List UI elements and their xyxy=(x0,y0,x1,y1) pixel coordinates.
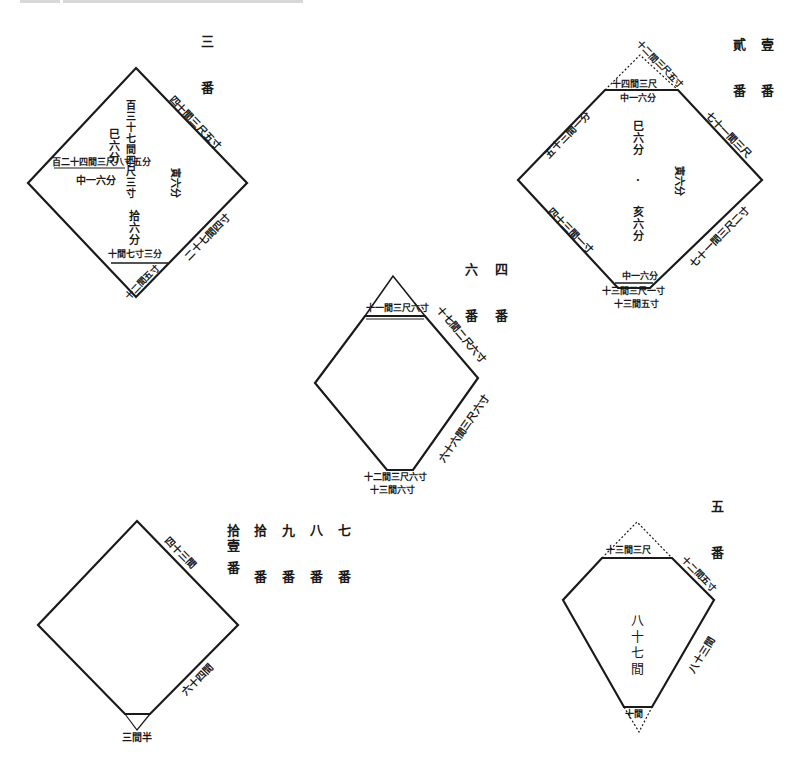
plot-1-2-inner-value-1: 巳六分 xyxy=(632,120,643,156)
plot-label-8: 八 番 xyxy=(309,524,322,597)
plot-1-2-edge-bottom-lower: 十三間五寸 xyxy=(614,300,659,309)
plot-4-6-edge-top-cut: 十一間三尺六寸 xyxy=(366,304,429,313)
plot-5-edge-bottom-cut: 十間 xyxy=(625,710,643,719)
plot-label-3: 三 番 xyxy=(200,35,213,108)
plot-1-2-edge-bottom-cut-above: 中一六分 xyxy=(622,272,658,281)
plot-4-6-edge-bottom-cut: 十二間三尺六寸 xyxy=(364,473,427,482)
plot-3-inner-value-1: 巳六分 xyxy=(108,128,119,164)
plot-label-10: 拾 番 xyxy=(253,524,266,597)
plot-3-edge-bottom-cut: 十間七寸三分 xyxy=(108,250,162,259)
plot-1-2-inner-value-2: 寅六分 xyxy=(674,166,684,196)
plot-label-2: 貳 番 xyxy=(732,38,745,111)
plot-7-11-bottom-triangle xyxy=(125,714,150,730)
plot-3-center-dot: · xyxy=(128,186,132,196)
survey-diagram-canvas xyxy=(0,0,798,769)
plot-5-inner-vertical: 八十七間 xyxy=(630,614,643,678)
plot-label-6: 六 番 xyxy=(464,263,477,336)
plot-7-11-edge-bottom: 三間半 xyxy=(122,733,152,743)
plot-1-2-edge-bottom-cut: 十三間三尺一寸 xyxy=(602,287,665,296)
plot-1-2-center-dot: · xyxy=(636,176,640,186)
plot-label-5: 五 番 xyxy=(710,500,723,573)
plot-3-inner-left: 百二十四間三尺八寸五分 xyxy=(52,158,151,167)
plot-1-2-inner-value-3: 亥六分 xyxy=(632,206,643,242)
plot-5-edge-top-cut: 十三間三尺 xyxy=(606,546,651,555)
plot-3-inner-value-3: 寅六分 xyxy=(170,168,180,198)
plot-4-6-edge-bottom-lower: 十三間六寸 xyxy=(370,486,415,495)
plot-label-4: 四 番 xyxy=(494,263,507,336)
plot-label-9: 九 番 xyxy=(281,524,294,597)
plot-1-2-edge-top-cut: 十四間三尺 xyxy=(612,80,657,89)
plot-7-11-outline xyxy=(38,521,238,714)
plot-1-2-edge-top-cut-below: 中一六分 xyxy=(620,94,656,103)
plot-label-11: 拾壹 番 xyxy=(226,524,239,576)
plot-label-1: 壹 番 xyxy=(760,38,773,111)
plot-3-inner-value-2: 中一六分 xyxy=(76,176,116,186)
plot-3-inner-value-4: 拾六分 xyxy=(128,210,139,246)
plot-label-7: 七 番 xyxy=(337,524,350,597)
